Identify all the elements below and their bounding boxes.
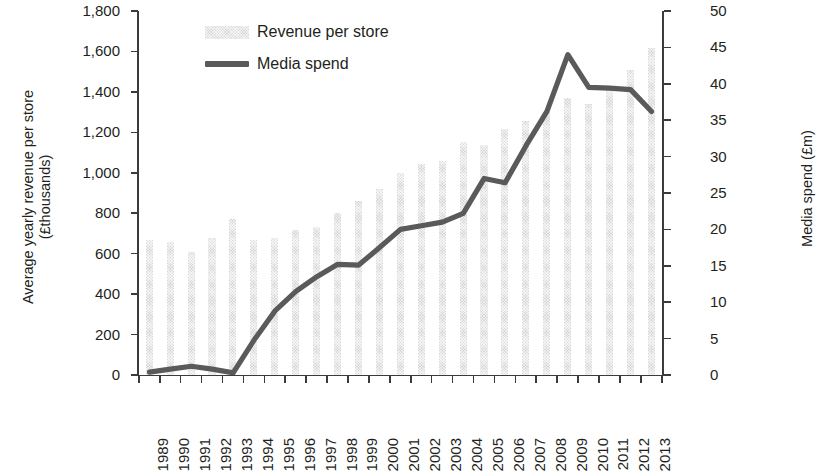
- legend-label-media-spend: Media spend: [257, 52, 349, 76]
- x-tick-label-2005: 2005: [490, 438, 505, 471]
- legend-line-swatch-icon: [205, 61, 249, 67]
- x-tick-label-2000: 2000: [385, 438, 400, 471]
- x-tick-label-2012: 2012: [636, 438, 651, 471]
- y-tick-label-left-1400: 1,400: [82, 84, 120, 99]
- x-tick-label-2003: 2003: [448, 438, 463, 471]
- y-tick-mark-right-5: [664, 338, 671, 340]
- y-tick-mark-right-10: [664, 301, 671, 303]
- y-tick-label-right-40: 40: [710, 76, 727, 91]
- x-tick-label-1991: 1991: [197, 438, 212, 471]
- x-tick-label-2001: 2001: [406, 438, 421, 471]
- y-tick-label-left-1800: 1,800: [82, 3, 120, 18]
- y-tick-label-right-30: 30: [710, 149, 727, 164]
- y-tick-label-right-20: 20: [710, 221, 727, 236]
- x-tick-label-2013: 2013: [657, 438, 672, 471]
- y-tick-label-left-800: 800: [95, 205, 120, 220]
- legend-bar-swatch-icon: [205, 26, 249, 39]
- x-tick-label-2008: 2008: [553, 438, 568, 471]
- x-tick-label-1992: 1992: [218, 438, 233, 471]
- y-tick-mark-right-40: [664, 83, 671, 85]
- y-tick-label-left-1000: 1,000: [82, 165, 120, 180]
- legend-item-revenue-per-store: Revenue per store: [205, 18, 445, 50]
- y-tick-label-left-600: 600: [95, 246, 120, 261]
- y-tick-mark-right-45: [664, 47, 671, 49]
- x-tick-label-2010: 2010: [595, 438, 610, 471]
- y-tick-mark-right-20: [664, 229, 671, 231]
- y-axis-left-ticks: 02004006008001,0001,2001,4001,6001,800: [22, 0, 120, 445]
- y-tick-label-right-25: 25: [710, 185, 727, 200]
- y-tick-label-left-400: 400: [95, 286, 120, 301]
- x-tick-label-1999: 1999: [364, 438, 379, 471]
- y-tick-mark-right-15: [664, 265, 671, 267]
- y-tick-mark-right-25: [664, 192, 671, 194]
- y-tick-label-right-0: 0: [710, 367, 718, 382]
- x-tick-label-2004: 2004: [469, 438, 484, 471]
- y-tick-label-right-5: 5: [710, 331, 718, 346]
- x-tick-label-1993: 1993: [239, 438, 254, 471]
- x-tick-label-1994: 1994: [260, 438, 275, 471]
- y-tick-mark-right-30: [664, 156, 671, 158]
- x-tick-label-2006: 2006: [511, 438, 526, 471]
- x-tick-label-1989: 1989: [155, 438, 170, 471]
- x-tick-label-2007: 2007: [532, 438, 547, 471]
- y-axis-right-title: Media spend (£m): [799, 54, 816, 324]
- legend-label-revenue-per-store: Revenue per store: [257, 20, 389, 44]
- x-tick-label-1996: 1996: [302, 438, 317, 471]
- y-tick-mark-right-50: [664, 10, 671, 12]
- legend-item-media-spend: Media spend: [205, 50, 445, 82]
- x-tick-label-2011: 2011: [615, 438, 630, 470]
- y-tick-label-right-15: 15: [710, 258, 727, 273]
- y-tick-mark-right-35: [664, 119, 671, 121]
- x-tick-label-1997: 1997: [323, 438, 338, 471]
- y-tick-label-right-10: 10: [710, 294, 727, 309]
- y-axis-right-ticks: 05101520253035404550: [690, 0, 750, 445]
- chart-legend: Revenue per store Media spend: [205, 18, 445, 82]
- x-tick-label-1995: 1995: [281, 438, 296, 471]
- x-tick-label-1998: 1998: [344, 438, 359, 471]
- x-axis-labels: 1989199019911992199319941995199619971998…: [139, 378, 662, 445]
- x-tick-label-2009: 2009: [574, 438, 589, 471]
- y-tick-label-right-45: 45: [710, 39, 727, 54]
- y-tick-label-left-0: 0: [112, 367, 120, 382]
- axis-spine-right: [662, 11, 664, 376]
- x-tick-label-1990: 1990: [176, 438, 191, 471]
- x-tick-label-2002: 2002: [427, 438, 442, 471]
- y-tick-label-left-200: 200: [95, 327, 120, 342]
- y-tick-label-left-1200: 1,200: [82, 124, 120, 139]
- y-tick-label-left-1600: 1,600: [82, 43, 120, 58]
- y-tick-label-right-35: 35: [710, 112, 727, 127]
- y-tick-label-right-50: 50: [710, 3, 727, 18]
- y-tick-mark-right-0: [664, 374, 671, 376]
